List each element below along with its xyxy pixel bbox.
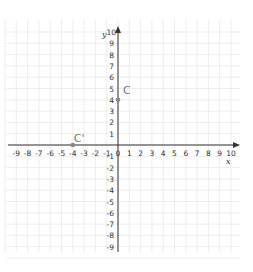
y-tick-label: 6: [109, 73, 114, 82]
grid-lines: [5, 20, 240, 258]
y-axis-label: y: [101, 30, 107, 39]
point-marker: [116, 98, 121, 103]
y-tick-label: -1: [107, 152, 115, 161]
points: CC': [71, 84, 132, 148]
y-tick-label: 3: [109, 107, 114, 116]
y-tick-label: 9: [109, 39, 114, 48]
y-tick-label: 4: [109, 96, 114, 105]
x-tick-label: -4: [69, 149, 77, 158]
x-tick-label: 9: [217, 149, 222, 158]
point-label: C': [74, 132, 85, 145]
x-tick-label: -8: [24, 149, 32, 158]
coordinate-plane: -9-8-7-6-5-4-3-2-1012345678910 109876543…: [0, 0, 253, 272]
y-tick-label: -7: [107, 220, 115, 229]
y-tick-label: -4: [107, 186, 115, 195]
x-tick-label: 7: [195, 149, 200, 158]
x-tick-label: 8: [206, 149, 211, 158]
x-tick-label: -3: [80, 149, 88, 158]
x-tick-label: 4: [161, 149, 166, 158]
y-tick-label: 5: [109, 85, 114, 94]
axes: [8, 26, 240, 252]
y-tick-label: -5: [107, 198, 115, 207]
x-tick-label: -6: [46, 149, 54, 158]
x-tick-label: 0: [116, 149, 121, 158]
y-axis-tick-labels: 10987654321-1-2-3-4-5-6-7-8-9: [106, 28, 116, 252]
y-tick-label: 2: [109, 118, 114, 127]
x-tick-label: 3: [150, 149, 155, 158]
x-tick-label: -2: [92, 149, 100, 158]
x-axis-arrow-icon: [233, 142, 240, 148]
x-tick-label: -9: [13, 149, 21, 158]
y-tick-label: -6: [107, 209, 115, 218]
y-tick-label: 1: [109, 130, 114, 139]
x-tick-label: -7: [35, 149, 43, 158]
y-tick-label: 7: [109, 62, 114, 71]
x-tick-label: 5: [172, 149, 177, 158]
y-tick-label: 8: [109, 51, 114, 60]
y-tick-label: -3: [107, 175, 115, 184]
x-tick-label: 1: [127, 149, 132, 158]
y-tick-label: 10: [106, 28, 116, 37]
y-tick-label: -8: [107, 231, 115, 240]
y-tick-label: -9: [107, 243, 115, 252]
point-label: C: [123, 84, 131, 97]
y-tick-label: -2: [107, 164, 115, 173]
x-axis-label: x: [226, 157, 231, 166]
x-tick-label: 6: [183, 149, 188, 158]
x-tick-label: 2: [138, 149, 143, 158]
x-tick-label: -5: [58, 149, 66, 158]
